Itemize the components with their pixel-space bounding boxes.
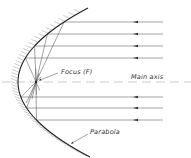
focus-point [35,81,37,83]
focus-pointer-arrow [40,73,58,80]
parabola-curve [18,8,90,157]
reflector-hatching [11,10,87,157]
focus-label: Focus (F) [61,68,92,76]
parabola-pointer-arrow [72,134,88,143]
parabola-label: Parabola [90,128,120,136]
main-axis-label: Main axis [131,73,163,81]
reflected-rays [21,22,64,120]
